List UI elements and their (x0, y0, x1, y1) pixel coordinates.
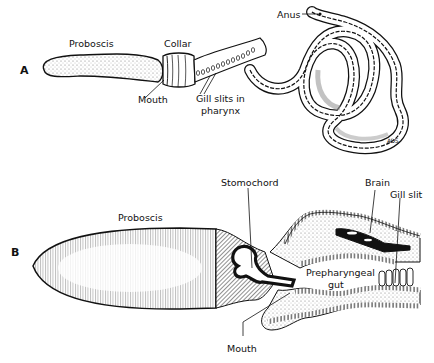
label-anus: Anus (277, 9, 301, 20)
label-gill-slits-line2: pharynx (201, 105, 240, 116)
panel-label-b: B (11, 246, 19, 259)
label-prepharyngeal-line2: gut (328, 279, 344, 290)
proboscis-a (43, 54, 163, 82)
label-collar-a: Collar (164, 38, 191, 49)
label-gill-slit: Gill slit (390, 189, 422, 200)
collar-a (163, 53, 195, 87)
anus-point-a (318, 12, 321, 15)
label-proboscis-a: Proboscis (69, 38, 114, 49)
label-mouth-b: Mouth (227, 343, 257, 354)
artist-signature: ADS (387, 137, 398, 144)
panel-a-drawing (43, 12, 403, 148)
label-gill-slits-line1: Gill slits in (196, 93, 245, 104)
label-prepharyngeal-line1: Prepharyngeal (306, 267, 375, 278)
coiled-trunk-a (250, 12, 403, 148)
label-stomochord: Stomochord (221, 177, 278, 188)
label-mouth-a: Mouth (138, 94, 168, 105)
label-brain: Brain (365, 177, 390, 188)
panel-label-a: A (20, 64, 29, 77)
panel-b-drawing (33, 188, 420, 336)
label-proboscis-b: Proboscis (118, 212, 163, 223)
